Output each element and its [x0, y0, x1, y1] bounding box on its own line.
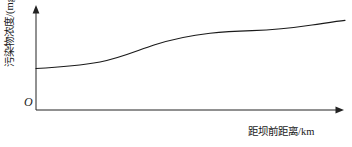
origin-label: O [24, 96, 33, 108]
y-axis-label: 污染物浓度/(mg/L) [1, 0, 16, 74]
x-axis-arrow-icon [336, 107, 345, 114]
chart-figure: 污染物浓度/(mg/L) O 距坝前距离/km [0, 0, 352, 147]
x-axis-label: 距坝前距离/km [248, 123, 314, 138]
y-axis-arrow-icon [33, 5, 40, 14]
pollutant-concentration-curve [36, 20, 345, 68]
